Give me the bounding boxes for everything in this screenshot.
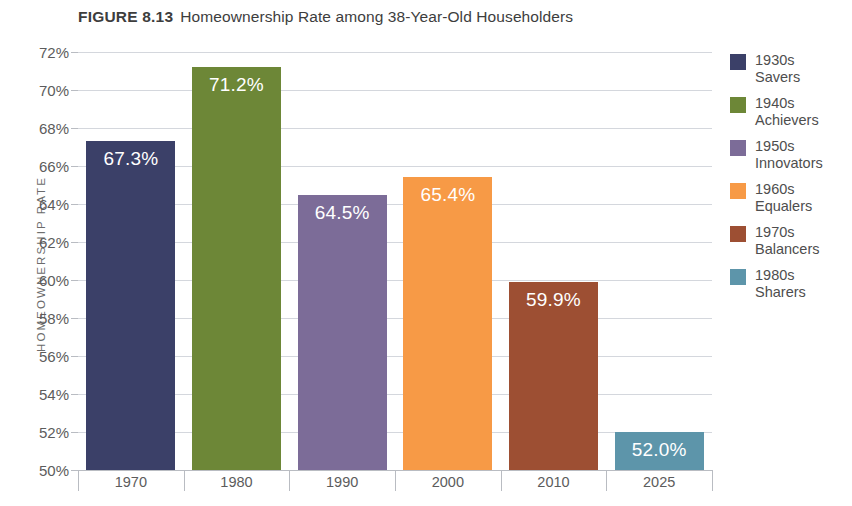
legend-swatch-icon	[730, 183, 746, 199]
bar[interactable]: 64.5%	[298, 195, 387, 471]
y-axis-tick	[71, 432, 78, 433]
y-axis-tick	[71, 470, 78, 471]
y-axis-tick	[71, 394, 78, 395]
bar[interactable]: 65.4%	[403, 177, 492, 470]
legend-decade: 1930s	[755, 52, 795, 68]
legend-label: 1970sBalancers	[755, 224, 819, 258]
figure-caption: Homeownership Rate among 38-Year-Old Hou…	[180, 8, 573, 25]
legend-label: 1980sSharers	[755, 267, 806, 301]
bar-group: 71.2%	[184, 52, 290, 470]
chart-legend: 1930sSavers1940sAchievers1950sInnovators…	[730, 52, 852, 310]
y-axis-tick-label: 54%	[39, 386, 69, 403]
bar[interactable]: 71.2%	[192, 67, 281, 470]
legend-label: 1960sEqualers	[755, 181, 812, 215]
legend-swatch-icon	[730, 97, 746, 113]
y-axis-tick-label: 52%	[39, 424, 69, 441]
x-axis-label: 2025	[606, 474, 712, 490]
legend-swatch-icon	[730, 140, 746, 156]
legend-item[interactable]: 1930sSavers	[730, 52, 852, 86]
y-axis-tick-label: 62%	[39, 234, 69, 251]
y-axis-tick-label: 64%	[39, 196, 69, 213]
legend-cohort-name: Balancers	[755, 241, 819, 258]
y-axis-tick	[71, 356, 78, 357]
legend-item[interactable]: 1970sBalancers	[730, 224, 852, 258]
bar-group: 67.3%	[78, 52, 184, 470]
legend-cohort-name: Innovators	[755, 155, 823, 172]
x-axis-label: 2000	[395, 474, 501, 490]
bars-layer: 67.3%71.2%64.5%65.4%59.9%52.0%	[78, 52, 712, 470]
legend-label: 1950sInnovators	[755, 138, 823, 172]
legend-cohort-name: Savers	[755, 69, 800, 86]
legend-cohort-name: Equalers	[755, 198, 812, 215]
y-axis-tick-label: 50%	[39, 462, 69, 479]
y-axis-tick	[71, 318, 78, 319]
bar[interactable]: 67.3%	[86, 141, 175, 470]
legend-item[interactable]: 1940sAchievers	[730, 95, 852, 129]
bar-value-label: 52.0%	[615, 439, 704, 461]
legend-swatch-icon	[730, 54, 746, 70]
bar-value-label: 65.4%	[403, 184, 492, 206]
bar[interactable]: 59.9%	[509, 282, 598, 470]
y-axis-tick-label: 56%	[39, 348, 69, 365]
y-axis-tick	[71, 90, 78, 91]
legend-item[interactable]: 1980sSharers	[730, 267, 852, 301]
y-axis-tick	[71, 204, 78, 205]
legend-cohort-name: Achievers	[755, 112, 819, 129]
legend-swatch-icon	[730, 226, 746, 242]
legend-item[interactable]: 1960sEqualers	[730, 181, 852, 215]
legend-decade: 1950s	[755, 138, 795, 154]
y-axis-tick-label: 60%	[39, 272, 69, 289]
y-axis-tick-label: 72%	[39, 44, 69, 61]
x-axis-label: 2010	[501, 474, 607, 490]
legend-item[interactable]: 1950sInnovators	[730, 138, 852, 172]
x-axis-label: 1970	[78, 474, 184, 490]
x-axis-label: 1990	[289, 474, 395, 490]
y-axis-tick	[71, 242, 78, 243]
y-axis-tick-label: 70%	[39, 82, 69, 99]
legend-decade: 1970s	[755, 224, 795, 240]
bar-value-label: 64.5%	[298, 202, 387, 224]
legend-cohort-name: Sharers	[755, 284, 806, 301]
legend-decade: 1960s	[755, 181, 795, 197]
x-axis-label: 1980	[184, 474, 290, 490]
y-axis-tick	[71, 52, 78, 53]
legend-decade: 1980s	[755, 267, 795, 283]
bar-group: 52.0%	[606, 52, 712, 470]
figure-number: FIGURE 8.13	[78, 8, 173, 25]
x-axis-tick	[712, 470, 713, 491]
bar-group: 59.9%	[501, 52, 607, 470]
legend-swatch-icon	[730, 269, 746, 285]
bar-group: 64.5%	[289, 52, 395, 470]
bar-value-label: 59.9%	[509, 289, 598, 311]
bar[interactable]: 52.0%	[615, 432, 704, 470]
page-title: FIGURE 8.13Homeownership Rate among 38-Y…	[78, 8, 573, 26]
y-axis-tick	[71, 280, 78, 281]
y-axis-tick	[71, 128, 78, 129]
bar-value-label: 67.3%	[86, 148, 175, 170]
y-axis-tick	[71, 166, 78, 167]
legend-label: 1940sAchievers	[755, 95, 819, 129]
bar-value-label: 71.2%	[192, 74, 281, 96]
bar-group: 65.4%	[395, 52, 501, 470]
chart-plot-area: 50%52%54%56%58%60%62%64%66%68%70%72% 67.…	[78, 52, 712, 470]
y-axis-tick-label: 66%	[39, 158, 69, 175]
legend-label: 1930sSavers	[755, 52, 800, 86]
y-axis-tick-label: 68%	[39, 120, 69, 137]
legend-decade: 1940s	[755, 95, 795, 111]
y-axis-tick-label: 58%	[39, 310, 69, 327]
